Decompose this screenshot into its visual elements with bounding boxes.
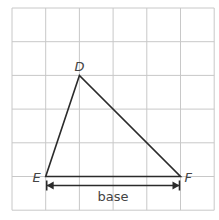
- vertex-label-d: D: [74, 59, 84, 74]
- triangle-diagram: D E F base: [0, 0, 219, 220]
- arrowhead-left: [47, 182, 54, 190]
- base-label: base: [98, 189, 129, 204]
- vertex-label-f: F: [185, 170, 193, 185]
- vertex-label-e: E: [32, 170, 41, 185]
- arrowhead-right: [173, 182, 180, 190]
